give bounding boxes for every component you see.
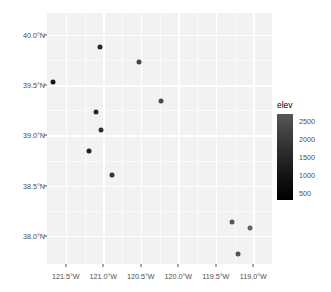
x-axis-tick-mark: [178, 264, 179, 267]
gridline-minor-vertical: [122, 13, 123, 264]
scatter-point: [110, 172, 115, 177]
gridline-major-horizontal: [47, 236, 272, 237]
x-axis-tick-label: 119.5°W: [202, 272, 229, 281]
legend-title: elev: [277, 100, 331, 110]
scatter-point: [93, 110, 98, 115]
gridline-major-vertical: [103, 13, 104, 264]
y-axis-tick-mark: [44, 185, 47, 186]
legend-tick-label: 2000: [299, 135, 315, 144]
gridline-major-horizontal: [47, 135, 272, 136]
gridline-major-vertical: [141, 13, 142, 264]
scatter-point: [247, 225, 252, 230]
legend-tick-label: 1000: [299, 170, 315, 179]
scatter-point: [99, 128, 104, 133]
legend: elev 2500200015001000500: [276, 100, 331, 200]
y-axis-tick-label: 39.5°N: [23, 81, 45, 90]
x-axis-tick-mark: [65, 264, 66, 267]
gridline-minor-horizontal: [47, 161, 272, 162]
x-axis-tick-label: 120.0°W: [164, 272, 192, 281]
x-axis-tick-label: 121.5°W: [52, 272, 80, 281]
chart-root: 40.0°N39.5°N39.0°N38.5°N38.0°N 121.5°W12…: [0, 0, 331, 292]
scatter-point: [229, 219, 234, 224]
gridline-minor-vertical: [235, 13, 236, 264]
legend-tick-label: 2500: [299, 117, 315, 126]
scatter-point: [159, 99, 164, 104]
gridline-minor-vertical: [197, 13, 198, 264]
plot-panel: [47, 13, 272, 264]
x-axis-tick-mark: [253, 264, 254, 267]
gridline-minor-horizontal: [47, 211, 272, 212]
gridline-minor-horizontal: [47, 60, 272, 61]
legend-tick-label: 500: [299, 188, 311, 197]
scatter-point: [137, 60, 142, 65]
y-axis-tick-label: 40.0°N: [23, 31, 45, 40]
x-axis-tick-label: 121.0°W: [89, 272, 117, 281]
scatter-point: [98, 45, 103, 50]
scatter-point: [87, 148, 92, 153]
y-axis-tick-mark: [44, 135, 47, 136]
x-axis-tick-label: 120.5°W: [127, 272, 155, 281]
gridline-major-horizontal: [47, 186, 272, 187]
gridline-minor-vertical: [160, 13, 161, 264]
gridline-minor-horizontal: [47, 110, 272, 111]
gridline-major-vertical: [216, 13, 217, 264]
y-axis-tick-mark: [44, 35, 47, 36]
x-axis-tick-mark: [103, 264, 104, 267]
legend-body: 2500200015001000500: [276, 114, 331, 200]
gridline-major-vertical: [178, 13, 179, 264]
y-axis-tick-label: 38.0°N: [23, 231, 45, 240]
scatter-point: [235, 251, 240, 256]
gridline-major-horizontal: [47, 35, 272, 36]
y-axis-tick-mark: [44, 85, 47, 86]
legend-colorbar: [277, 114, 293, 200]
legend-tick-label: 1500: [299, 153, 315, 162]
gridline-major-vertical: [253, 13, 254, 264]
gridline-major-horizontal: [47, 85, 272, 86]
x-axis-tick-mark: [140, 264, 141, 267]
x-axis-tick-mark: [215, 264, 216, 267]
gridline-minor-vertical: [85, 13, 86, 264]
scatter-point: [51, 80, 56, 85]
x-axis-tick-label: 119.0°W: [240, 272, 267, 281]
y-axis-tick-label: 38.5°N: [23, 181, 45, 190]
y-axis-tick-label: 39.0°N: [23, 131, 45, 140]
gridline-major-vertical: [66, 13, 67, 264]
y-axis-tick-mark: [44, 235, 47, 236]
